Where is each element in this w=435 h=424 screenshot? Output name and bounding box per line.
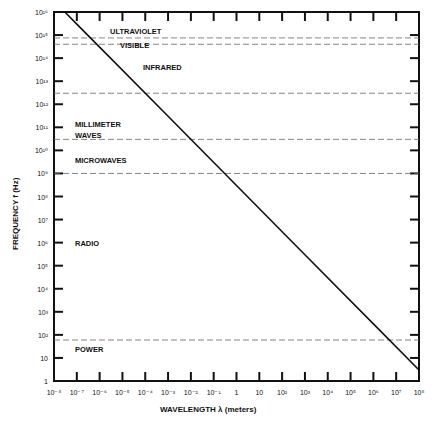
y-axis-ticks: 11010²10³10⁴10⁵10⁶10⁷10⁸10⁹10¹⁰10¹¹10¹²1… [35,9,419,385]
x-tick-label: 10⁻³ [161,389,176,396]
x-tick-label: 10 [255,389,263,396]
y-tick-label: 10² [38,332,49,339]
y-tick-label: 1 [44,378,48,385]
y-tick-label: 10⁷ [38,217,49,224]
x-tick-label: 10³ [300,389,311,396]
y-tick-label: 10³ [38,309,49,316]
x-tick-label: 10⁶ [368,389,379,396]
band-label-visible: VISIBLE [120,41,149,50]
x-tick-label: 10⁻⁶ [92,389,107,396]
band-label-waves: WAVES [75,131,102,140]
y-tick-label: 10⁶ [37,240,48,247]
band-label-radio: RADIO [75,239,99,248]
band-label-microwaves: MICROWAVES [75,156,127,165]
y-tick-label: 10 [40,355,48,362]
y-tick-label: 10¹¹ [36,124,49,131]
x-tick-label: 10⁻² [184,389,199,396]
y-tick-label: 10⁵ [37,263,48,270]
y-tick-label: 10¹⁵ [35,32,48,39]
plot-frame [54,12,419,381]
y-tick-label: 10¹³ [36,78,49,85]
x-tick-label: 10⁷ [391,389,402,396]
x-axis-ticks: 10⁻⁸10⁻⁷10⁻⁶10⁻⁵10⁻⁴10⁻³10⁻²10⁻¹11010²10… [47,12,425,396]
x-tick-label: 10⁴ [322,389,333,396]
band-boundaries [54,38,419,340]
x-tick-label: 10⁻⁸ [47,389,62,396]
x-tick-label: 10⁵ [345,389,356,396]
x-tick-label: 10⁻⁴ [138,389,153,396]
x-tick-label: 1 [235,389,239,396]
spectrum-chart: 11010²10³10⁴10⁵10⁶10⁷10⁸10⁹10¹⁰10¹¹10¹²1… [0,0,435,424]
x-tick-label: 10⁻¹ [207,389,222,396]
y-tick-label: 10¹⁶ [35,9,48,16]
x-tick-label: 10² [277,389,288,396]
x-axis-title: WAVELENGTH λ (meters) [160,405,257,414]
y-tick-label: 10¹⁴ [35,55,48,62]
y-axis-title: FREQUENCY f (Hz) [11,177,20,250]
band-label-ultraviolet: ULTRAVIOLET [110,27,162,36]
band-label-power: POWER [75,345,104,354]
y-tick-label: 10¹² [36,101,49,108]
frequency-wavelength-line [65,12,419,370]
y-tick-label: 10¹⁰ [35,147,48,154]
y-tick-label: 10⁹ [37,170,48,177]
y-tick-label: 10⁴ [37,286,48,293]
x-tick-label: 10⁻⁷ [70,389,85,396]
band-label-infrared: INFRARED [143,63,182,72]
band-label-millimeter: MILLIMETER [75,120,121,129]
x-tick-label: 10⁻⁵ [115,389,130,396]
y-tick-label: 10⁸ [37,194,48,201]
x-tick-label: 10⁸ [414,389,425,396]
